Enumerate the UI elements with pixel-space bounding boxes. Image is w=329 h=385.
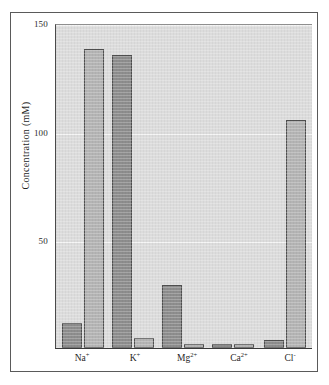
plot-area [55,24,312,348]
x-tick-label-k: K+ [110,352,160,364]
x-label-na-charge: + [86,351,90,358]
x-tick-label-mg: Mg2+ [160,352,214,364]
bar-K-series-light [134,338,154,348]
x-axis-line [55,348,312,349]
x-label-ca-text: Ca [230,353,241,363]
x-label-cl-charge: - [293,351,295,358]
x-label-mg-text: Mg [177,353,190,363]
x-label-mg-charge: 2+ [190,351,197,358]
bar-chart-figure: Concentration (mM) 150 100 50 Na+ K+ Mg2… [0,0,329,385]
bar-K-series-dark [112,55,132,348]
x-label-k-text: K [130,353,137,363]
bar-Cl-series-light [286,120,306,348]
y-axis-title: Concentration (mM) [20,76,31,216]
y-tick-label-100: 100 [34,129,48,138]
bar-Na-series-light [84,49,104,348]
x-label-ca-charge: 2+ [241,351,248,358]
y-tick-150: 150 [20,20,48,29]
y-tick-label-150: 150 [34,20,48,29]
bar-Na-series-dark [62,323,82,348]
x-tick-label-na: Na+ [57,352,107,364]
x-tick-label-ca: Ca2+ [212,352,266,364]
y-tick-50: 50 [20,237,48,246]
gridline-150 [56,25,312,26]
bar-Mg2-series-dark [162,285,182,348]
x-label-na-text: Na [75,353,86,363]
y-tick-label-50: 50 [39,237,48,246]
y-tick-100: 100 [20,129,48,138]
bar-Cl-series-dark [264,340,284,348]
x-label-k-charge: + [137,351,141,358]
x-tick-label-cl: Cl- [265,352,315,364]
